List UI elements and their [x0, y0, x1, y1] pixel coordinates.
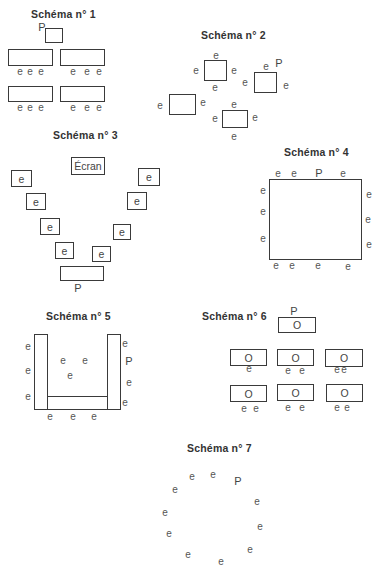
student-label: e: [96, 67, 102, 77]
student-label: e: [82, 356, 88, 366]
student-label: e: [25, 366, 31, 376]
schema-2: Schéma n° 2 e e e e e P e e e e e e e e: [0, 0, 382, 586]
student-desk: O: [277, 349, 314, 366]
teacher-label: P: [290, 306, 297, 317]
schema-7: Schéma n° 7 e e P e e e e e e e e: [0, 0, 382, 586]
student-desk: O: [230, 385, 267, 402]
teacher-label: P: [315, 168, 322, 179]
student-label: e: [254, 497, 260, 507]
group-table: [254, 72, 277, 93]
student-label: e: [25, 342, 31, 352]
student-label: e: [47, 412, 53, 422]
student-label: e: [260, 186, 266, 196]
student-label: e: [289, 261, 295, 271]
student-label: e: [344, 403, 350, 413]
schema-1: Schéma n° 1 P e e e e e e e e e e e e: [0, 0, 382, 586]
student-label: e: [70, 67, 76, 77]
student-label: e: [84, 67, 90, 77]
student-desk: O: [326, 384, 363, 402]
group-table: [169, 94, 196, 115]
student-label: e: [38, 103, 44, 113]
student-label: e: [70, 412, 76, 422]
student-label: e: [341, 365, 347, 375]
student-label: e: [263, 62, 269, 72]
student-desk: [60, 49, 105, 66]
student-label: e: [67, 371, 73, 381]
schema-3-title: Schéma n° 3: [53, 129, 118, 141]
student-label: e: [273, 261, 279, 271]
group-table: [222, 110, 248, 128]
schema-4: Schéma n° 4 e e P e e e e e e e e e e e: [0, 0, 382, 586]
student-label: e: [27, 67, 33, 77]
student-label: e: [172, 485, 178, 495]
student-label: e: [91, 412, 97, 422]
student-desk: O: [277, 384, 314, 401]
student-label: e: [257, 522, 263, 532]
student-label: e: [366, 240, 372, 250]
schema-7-title: Schéma n° 7: [187, 442, 252, 454]
student-label: e: [334, 403, 340, 413]
student-label: e: [334, 365, 340, 375]
student-label: e: [285, 366, 291, 376]
student-label: e: [260, 207, 266, 217]
teacher-label: P: [234, 476, 241, 487]
student-label: e: [185, 550, 191, 560]
student-label: e: [283, 81, 289, 91]
teacher-desk: [45, 28, 63, 43]
student-label: e: [122, 398, 128, 408]
teacher-label: P: [74, 283, 81, 294]
student-label: e: [38, 67, 44, 77]
student-label: e: [189, 472, 195, 482]
student-desk: [60, 86, 105, 102]
student-label: e: [241, 404, 247, 414]
student-label: e: [126, 378, 132, 388]
student-desk: e: [113, 224, 131, 240]
student-desk: e: [11, 170, 32, 187]
student-label: e: [315, 261, 321, 271]
screen: Écran: [71, 157, 105, 175]
student-label: e: [17, 103, 23, 113]
student-label: e: [212, 83, 218, 93]
student-label: e: [218, 557, 224, 567]
student-label: e: [157, 101, 163, 111]
student-label: e: [213, 51, 219, 61]
student-label: e: [17, 67, 23, 77]
student-label: e: [84, 103, 90, 113]
student-desk: e: [55, 242, 74, 259]
schema-2-title: Schéma n° 2: [201, 29, 266, 41]
student-label: e: [231, 132, 237, 142]
student-label: e: [299, 403, 305, 413]
student-label: e: [231, 100, 237, 110]
student-desk: O: [230, 349, 267, 366]
left-bench: [34, 334, 48, 410]
right-bench: [107, 334, 121, 410]
student-label: e: [253, 404, 259, 414]
student-desk: e: [138, 168, 160, 186]
teacher-desk: [60, 266, 104, 281]
student-label: e: [366, 190, 372, 200]
student-label: e: [231, 66, 237, 76]
student-label: e: [275, 169, 281, 179]
schema-3: Schéma n° 3 Écran e e e e e e e e P: [0, 0, 382, 586]
schema-5-title: Schéma n° 5: [46, 310, 111, 322]
schema-6-title: Schéma n° 6: [202, 310, 267, 322]
student-desk: [8, 86, 53, 102]
student-desk: [8, 49, 53, 66]
student-label: e: [242, 78, 248, 88]
student-label: e: [246, 364, 252, 374]
student-label: e: [25, 392, 31, 402]
teacher-desk: O: [278, 317, 316, 333]
student-label: e: [299, 366, 305, 376]
student-desk: e: [127, 192, 147, 210]
group-table: [204, 60, 227, 81]
schema-6: Schéma n° 6 P O O O O e e e e e O O O e …: [0, 0, 382, 586]
schema-1-title: Schéma n° 1: [31, 8, 96, 20]
student-label: e: [247, 545, 253, 555]
student-label: e: [122, 339, 128, 349]
student-desk: e: [26, 193, 46, 210]
student-label: e: [340, 169, 346, 179]
student-label: e: [166, 529, 172, 539]
student-label: e: [210, 470, 216, 480]
bottom-bench: [47, 396, 108, 410]
student-label: e: [27, 103, 33, 113]
